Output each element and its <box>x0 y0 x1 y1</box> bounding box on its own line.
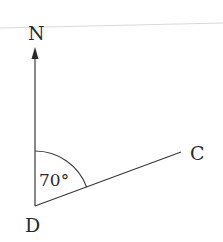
angle-label: 70° <box>39 170 69 190</box>
point-d-label: D <box>25 214 40 236</box>
bearing-diagram: N 70° C D <box>0 0 223 242</box>
point-c-label: C <box>190 142 205 164</box>
north-arrow-icon <box>32 47 39 59</box>
north-label: N <box>28 22 45 44</box>
